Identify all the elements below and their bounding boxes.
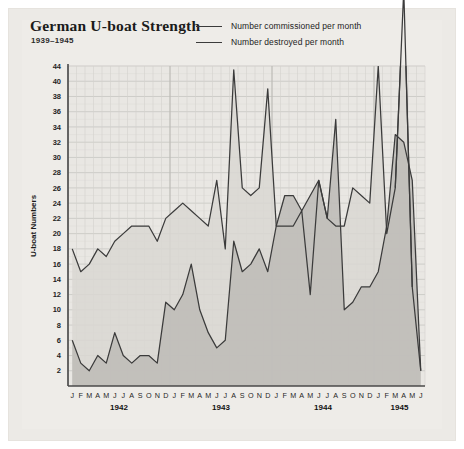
legend-label-destroyed: Number destroyed per month [231,37,344,47]
legend-item-commissioned: Number commissioned per month [196,19,361,33]
chart-figure: German U-boat Strength 1939–1945 Number … [0,0,464,449]
chart-inner-plate [22,20,442,429]
chart-legend: Number commissioned per month Number des… [196,19,361,51]
chart-subtitle: 1939–1945 [31,36,74,45]
legend-line-icon [196,42,222,43]
legend-line-icon [196,26,222,27]
chart-paper-panel [8,8,456,441]
legend-item-destroyed: Number destroyed per month [196,35,361,49]
chart-title: German U-boat Strength [30,17,200,35]
legend-label-commissioned: Number commissioned per month [231,21,361,31]
